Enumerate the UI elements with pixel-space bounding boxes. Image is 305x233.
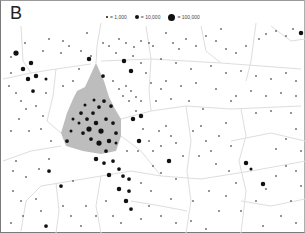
population-dot <box>167 159 172 164</box>
population-dot <box>25 108 27 110</box>
population-dot <box>50 140 52 142</box>
population-dot <box>68 45 70 47</box>
population-dot <box>122 95 124 97</box>
panel-label: B <box>10 4 22 22</box>
population-dot <box>202 108 204 110</box>
population-dot <box>45 78 48 81</box>
population-dot <box>300 185 302 187</box>
population-dot <box>152 150 154 152</box>
population-dot <box>78 122 81 125</box>
population-dot <box>172 42 174 44</box>
population-dot <box>85 117 89 121</box>
population-dot <box>132 55 134 57</box>
population-dot <box>8 85 10 87</box>
population-dot <box>72 118 75 121</box>
legend-label: = 10,000 <box>141 14 161 20</box>
population-dot <box>255 75 257 77</box>
population-dot <box>165 80 167 82</box>
population-dot <box>285 72 287 74</box>
boundary-line <box>56 183 59 233</box>
population-dot <box>85 205 87 207</box>
population-dot <box>18 118 20 120</box>
population-dot <box>137 150 139 152</box>
population-dot <box>220 28 222 30</box>
population-dot <box>25 176 27 178</box>
population-dot <box>152 165 154 167</box>
population-dot <box>210 150 212 152</box>
population-dot <box>91 111 95 115</box>
population-dot <box>190 68 192 70</box>
population-dot <box>102 161 106 165</box>
population-dot <box>128 100 130 102</box>
population-dot <box>285 35 287 37</box>
population-dot <box>80 50 82 52</box>
population-dot <box>170 135 172 137</box>
population-dot <box>135 110 137 112</box>
boundary-line <box>246 23 256 81</box>
boundary-line <box>96 176 101 233</box>
population-dot <box>295 128 297 130</box>
population-dot <box>12 170 14 172</box>
population-dot <box>120 222 122 224</box>
boundary-line <box>3 146 61 161</box>
population-dot <box>218 135 220 137</box>
population-dot <box>285 138 287 140</box>
population-dot <box>160 58 162 60</box>
population-dot <box>160 88 162 90</box>
population-dot <box>10 72 12 74</box>
population-dot <box>70 215 72 217</box>
population-dot <box>160 215 162 217</box>
population-dot <box>255 200 257 202</box>
population-dot <box>31 89 35 93</box>
population-dot <box>230 145 232 147</box>
population-dot <box>62 40 64 42</box>
population-dot <box>127 177 131 181</box>
legend: = 1,000 = 10,000 = 100,000 <box>106 11 200 23</box>
population-dot <box>84 104 87 107</box>
population-dot <box>158 130 160 132</box>
population-dot <box>160 172 162 174</box>
population-dot <box>295 222 297 224</box>
population-dot <box>108 45 110 47</box>
population-dot <box>280 215 282 217</box>
population-dot <box>142 128 144 130</box>
population-dot <box>131 117 136 122</box>
population-dot <box>160 145 162 147</box>
population-dot <box>290 200 292 202</box>
population-dot <box>12 190 14 192</box>
population-dot <box>225 48 227 50</box>
population-dot <box>139 114 144 119</box>
population-dot <box>20 200 22 202</box>
population-dot <box>38 168 40 170</box>
population-dot <box>15 92 17 94</box>
population-dot <box>150 190 152 192</box>
population-dot <box>42 115 44 117</box>
population-dot <box>205 228 207 230</box>
medium-dot-icon <box>135 15 139 19</box>
population-dot <box>300 150 302 152</box>
population-dot <box>104 149 108 153</box>
population-dot <box>240 70 242 72</box>
population-dot <box>112 215 114 217</box>
population-dot <box>175 178 177 180</box>
population-dot <box>215 88 217 90</box>
population-dot <box>205 140 207 142</box>
population-dot <box>208 190 210 192</box>
population-dot <box>125 42 127 44</box>
small-dot-icon <box>106 16 108 18</box>
population-dot <box>175 222 177 224</box>
population-dot <box>117 187 122 192</box>
population-dot <box>90 55 92 57</box>
population-dot <box>265 188 267 190</box>
population-dot <box>107 139 112 144</box>
population-dot <box>255 112 257 114</box>
population-dot <box>86 126 91 131</box>
population-dot <box>175 62 177 64</box>
population-dot <box>109 104 113 108</box>
large-dot-icon <box>168 14 175 21</box>
population-dot <box>102 99 106 103</box>
boundary-line <box>121 136 305 179</box>
population-dot <box>235 95 237 97</box>
population-dot <box>117 167 121 171</box>
population-dot <box>265 95 267 97</box>
